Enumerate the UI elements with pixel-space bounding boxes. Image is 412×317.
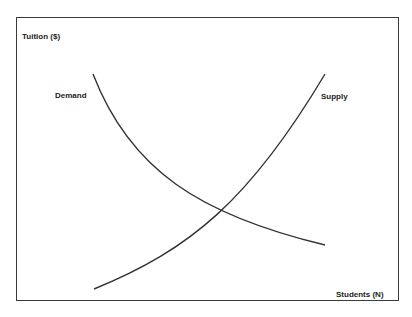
supply-curve (94, 74, 325, 289)
x-axis-label: Students (N) (336, 290, 384, 299)
supply-label: Supply (321, 92, 348, 101)
supply-demand-curves (0, 0, 412, 317)
y-axis-label: Tuition ($) (22, 32, 60, 41)
demand-curve (93, 74, 325, 245)
demand-label: Demand (55, 91, 87, 100)
